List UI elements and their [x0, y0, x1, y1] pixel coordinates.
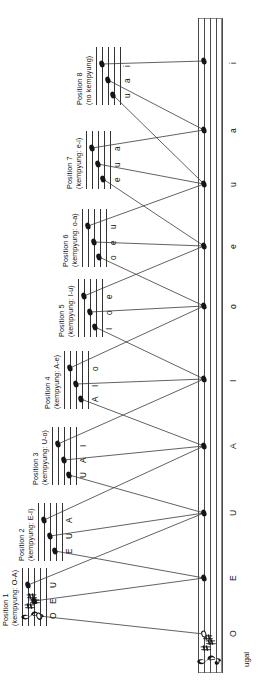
position-3-note-label: I [80, 445, 88, 447]
position-title-line1: Position 3 [31, 452, 40, 485]
position-2-note-label: U [66, 533, 74, 539]
ugal-note-label: E [229, 575, 238, 581]
ugal-note-label: O [229, 630, 238, 637]
ugal-staff-line [198, 18, 199, 673]
ugal-note-label: I [229, 380, 238, 382]
position-staff-line [96, 47, 97, 105]
note-connector-line [103, 179, 204, 246]
sharp-icon [200, 645, 212, 651]
figure-canvas: OEUAIoeuaiugal Position 1(kempyung: O-A)… [0, 0, 266, 681]
position-staff-line [38, 503, 39, 561]
treble-clef-icon [16, 609, 48, 625]
position-staff-line [82, 209, 83, 267]
position-title-line1: Position 8 [75, 72, 84, 105]
position-staff-line [120, 47, 121, 105]
position-title-line2: (kempyung: O-A) [11, 570, 20, 626]
position-5-note-label: I [106, 328, 114, 330]
ugal-staff-line [222, 18, 223, 673]
position-7-note-label: e [114, 177, 122, 182]
position-title-4: Position 4(kempyung: A-e) [44, 355, 61, 409]
position-7-note-label: a [114, 146, 122, 151]
position-staff-line [58, 427, 59, 485]
ugal-note-label: i [229, 62, 238, 64]
position-title-line1: Position 2 [17, 528, 26, 561]
position-staff-line [52, 427, 53, 485]
note-connector-line [95, 327, 204, 379]
position-title-line2: (kempyung: E-I) [27, 508, 36, 561]
position-2-note-label: E [66, 549, 74, 554]
ugal-staff-line [216, 18, 217, 673]
position-6-note-label: u [110, 224, 118, 229]
position-staff-line [70, 351, 71, 409]
position-3-note-label: A [80, 458, 88, 463]
position-staff-line [88, 209, 89, 267]
position-title-line2: (kempyung: A-e) [53, 355, 62, 409]
position-staff-line [110, 131, 111, 189]
position-staff-line [86, 131, 87, 189]
position-title-line2: (kempyung: I-u) [67, 285, 76, 337]
ugal-note-label: U [229, 510, 238, 516]
position-staff-line [102, 47, 103, 105]
position-title-3: Position 3(kempyung: U-o) [32, 430, 49, 485]
ugal-key-signature-sharp-icon [198, 645, 216, 651]
position-title-line1: Position 7 [65, 156, 74, 189]
note-connector-line [76, 379, 204, 384]
position-4-note-label: A [92, 397, 100, 402]
position-staff-line [44, 503, 45, 561]
note-connector-line [69, 475, 204, 513]
ugal-staff-line [210, 18, 211, 673]
ugal-note-label: u [229, 182, 238, 187]
position-staff-line [102, 279, 103, 337]
position-title-line2: (kempyung: e-i) [75, 138, 84, 189]
position-staff-line [62, 503, 63, 561]
note-connector-line [113, 95, 204, 184]
position-6-note-label: o [110, 255, 118, 260]
position-1-treble-clef-icon [16, 609, 52, 625]
ugal-key-signature-sharp-icon [203, 640, 221, 646]
position-4-note-label: o [92, 366, 100, 371]
position-title-6: Position 6(kempyung: o-a) [62, 213, 79, 267]
ugal-note-label: e [229, 244, 238, 249]
position-title-2: Position 2(kempyung: E-I) [18, 508, 35, 561]
note-connector-line [34, 578, 204, 601]
treble-clef-icon [192, 653, 225, 670]
note-connector-line [99, 257, 204, 306]
position-2-note-label: A [66, 518, 74, 523]
position-3-note-label: U [80, 472, 88, 478]
position-4-note-label: I [92, 385, 100, 387]
position-8-note-label: i [124, 65, 132, 67]
position-8-note-label: a [124, 78, 132, 83]
position-title-1: Position 1(kempyung: O-A) [2, 570, 19, 626]
position-title-line1: Position 6 [61, 234, 70, 267]
position-1-note-label: U [50, 582, 58, 588]
position-6-note-label: e [110, 240, 118, 245]
position-5-note-label: e [106, 294, 114, 299]
figure-root: OEUAIoeuaiugal Position 1(kempyung: O-A)… [0, 0, 266, 681]
note-connector-line [108, 80, 204, 130]
position-title-line2: (kempyung: U-o) [41, 430, 50, 485]
position-title-line1: Position 1 [1, 593, 10, 626]
note-connector-line [39, 616, 204, 634]
position-staff-line [92, 131, 93, 189]
position-title-line1: Position 4 [43, 376, 52, 409]
position-title-8: Position 8(no kempyung) [76, 56, 93, 105]
ugal-note-label: A [229, 443, 238, 449]
position-title-line2: (kempyung: o-a) [71, 213, 80, 267]
position-title-line1: Position 5 [57, 304, 66, 337]
position-staff-line [76, 427, 77, 485]
position-1-note-label: E [50, 599, 58, 604]
position-title-line2: (no kempyung) [85, 56, 94, 105]
position-8-note-label: u [124, 93, 132, 98]
position-1-note-label: O [50, 613, 58, 619]
ugal-note-label: o [229, 304, 238, 309]
sharp-icon [205, 640, 217, 646]
position-staff-line [78, 279, 79, 337]
ugal-staff-name-label: ugal [242, 652, 251, 667]
position-7-note-label: u [114, 162, 122, 167]
ugal-treble-clef-icon [192, 653, 229, 670]
position-5-note-label: o [106, 310, 114, 315]
ugal-note-label: a [229, 128, 238, 133]
position-staff-line [88, 351, 89, 409]
position-title-7: Position 7(kempyung: e-i) [66, 138, 83, 189]
position-title-5: Position 5(kempyung: I-u) [58, 285, 75, 337]
